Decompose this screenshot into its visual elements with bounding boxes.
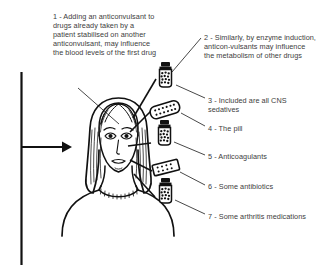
diagram-canvas: 1 - Adding an anticonvulsant to drugs al…: [0, 0, 318, 275]
annotation-text-6: 6 - Some antibiotics: [208, 182, 314, 191]
annotation-text-4: 4 - The pill: [208, 124, 314, 133]
blister-pack-small-icon: [152, 159, 180, 176]
leader-line-2: [172, 38, 201, 72]
annotation-text-2: 2 - Similarly, by enzyme induction, anti…: [204, 33, 316, 60]
annotation-text-3: 3 - Included are all CNS sedatives: [208, 96, 314, 114]
annotation-text-5: 5 - Anticoagulants: [208, 152, 314, 161]
blister-pack-icon: [149, 99, 181, 120]
leader-line-7: [175, 200, 205, 214]
annotation-text-7: 7 - Some arthritis medications: [208, 212, 314, 221]
arrow-right-icon: [21, 142, 72, 153]
pill-bottle-icon: [160, 62, 172, 87]
annotation-text-1: 1 - Adding an anticonvulsant to drugs al…: [53, 12, 157, 57]
pill-bottle-icon: [159, 120, 171, 145]
leader-line-3: [176, 85, 205, 98]
leader-line-4: [181, 113, 205, 126]
leader-line-6: [180, 172, 205, 185]
leader-line-5: [174, 142, 205, 155]
pill-bottle-icon: [160, 178, 172, 203]
